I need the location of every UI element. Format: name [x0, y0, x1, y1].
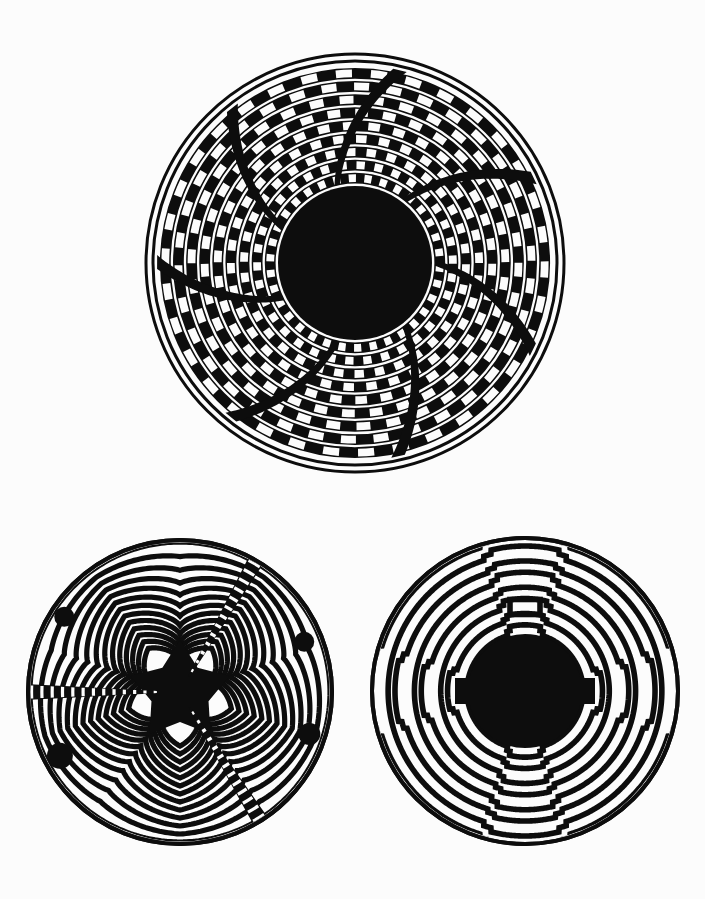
star-labyrinth-svg — [22, 534, 338, 850]
rim-lobe-2 — [54, 607, 74, 627]
stepped-labyrinth-weave — [369, 535, 682, 848]
figure-stepped-concentric-labyrinth — [366, 532, 684, 850]
stepped-labyrinth-svg — [366, 532, 684, 850]
star-labyrinth-weave — [28, 540, 332, 844]
rim-lobe-1 — [298, 723, 320, 745]
pinwheel-weave — [146, 54, 564, 472]
rim-lobe-3 — [294, 632, 314, 652]
figure-five-point-star-labyrinth — [22, 534, 338, 850]
design-plate — [0, 0, 705, 899]
radial-pinwheel-svg — [139, 45, 571, 481]
rim-lobe-0 — [47, 743, 73, 769]
figure-radial-pinwheel-basket — [139, 45, 571, 481]
